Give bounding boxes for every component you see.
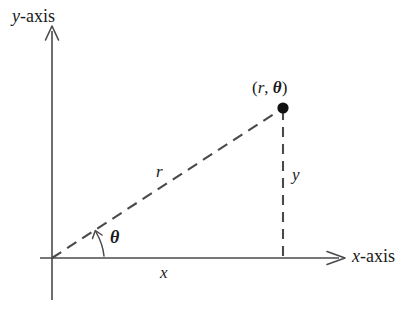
- polar-coordinates-figure: y-axis x-axis r y x θ (r, θ): [0, 0, 410, 312]
- radius-segment: [52, 108, 283, 258]
- point-coordinates-label: (r, θ): [252, 79, 287, 96]
- horizontal-leg-label: x: [160, 264, 168, 281]
- vertical-leg-label: y: [292, 166, 300, 183]
- x-axis-label-suffix: -axis: [360, 246, 395, 266]
- point-label-angle: θ: [273, 78, 282, 97]
- point-label-close-paren: ): [282, 78, 288, 97]
- x-axis-label: x-axis: [352, 247, 395, 265]
- angle-label: θ: [110, 228, 119, 246]
- angle-arc-arrow-icon: [96, 232, 104, 256]
- point-marker-dot: [277, 102, 288, 113]
- y-axis-label: y-axis: [12, 7, 55, 25]
- figure-canvas: [0, 0, 410, 312]
- x-axis-label-variable: x: [352, 246, 360, 266]
- y-axis-label-suffix: -axis: [20, 6, 55, 26]
- y-axis-label-variable: y: [12, 6, 20, 26]
- radius-label: r: [156, 163, 163, 180]
- point-label-comma: ,: [264, 78, 273, 97]
